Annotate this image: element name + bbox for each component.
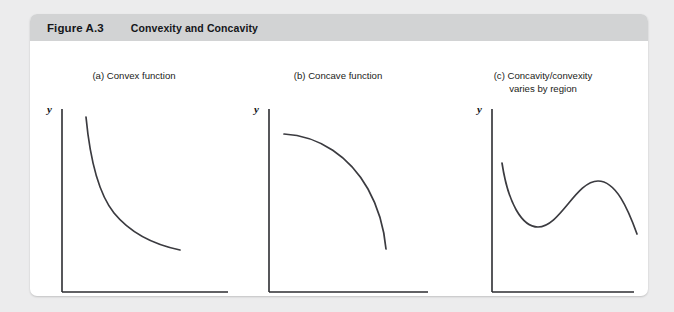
figure-number: Figure A.3 [47,22,104,34]
panel-a-x-axis-label: x [220,295,227,296]
figure-card: Figure A.3 Convexity and Concavity (a) C… [30,14,648,296]
panel-a-curve [86,117,180,250]
figure-title: Convexity and Concavity [131,22,258,34]
panel-a-plot: y x [30,41,238,296]
figure-title-band: Figure A.3 Convexity and Concavity [30,14,648,41]
panel-convex-function: (a) Convex function y x [30,41,238,296]
panel-b-curve [284,134,386,249]
panel-c-plot: y x [438,41,648,296]
panel-varying-concavity: (c) Concavity/convexity varies by region… [438,41,648,296]
panel-a-y-axis-label: y [45,103,52,115]
panel-concave-function: (b) Concave function y x [238,41,438,296]
panel-b-y-axis-label: y [252,103,259,115]
panel-c-x-axis-label: x [626,295,633,296]
panel-b-x-axis-label: x [420,295,427,296]
panel-b-plot: y x [238,41,438,296]
panel-c-curve [502,163,637,234]
panel-c-y-axis-label: y [475,103,482,115]
